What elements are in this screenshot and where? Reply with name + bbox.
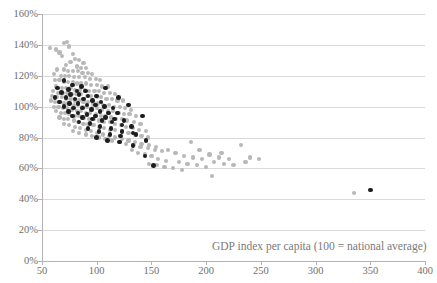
data-point-series_a	[257, 157, 261, 161]
data-point-series_a	[138, 122, 142, 126]
data-point-series_a	[118, 105, 122, 109]
data-point-series_b	[97, 129, 102, 134]
data-point-series_a	[68, 60, 72, 64]
y-tick-mark	[38, 138, 42, 139]
data-point-series_a	[65, 40, 69, 44]
data-point-series_b	[126, 103, 131, 108]
data-point-series_a	[56, 105, 60, 109]
data-point-series_a	[73, 125, 77, 129]
data-point-series_a	[231, 163, 235, 167]
y-tick-label: 80%	[0, 133, 38, 143]
y-tick-mark	[38, 199, 42, 200]
gridline-horizontal	[42, 45, 425, 46]
gridline-horizontal	[42, 76, 425, 77]
x-axis-title: GDP index per capita (100 = national ave…	[212, 240, 427, 252]
data-point-series_b	[81, 97, 86, 102]
y-tick-mark	[38, 168, 42, 169]
y-tick-label: 20%	[0, 225, 38, 235]
data-point-series_b	[89, 107, 94, 112]
data-point-series_a	[149, 154, 153, 158]
gridline-horizontal	[42, 199, 425, 200]
gridline-horizontal	[42, 14, 425, 15]
data-point-series_a	[80, 71, 84, 75]
data-point-series_b	[131, 143, 136, 148]
data-point-series_a	[130, 148, 134, 152]
data-point-series_a	[62, 122, 66, 126]
data-point-series_a	[51, 89, 55, 93]
data-point-series_a	[121, 98, 125, 102]
data-point-series_a	[122, 112, 126, 116]
y-tick-label: 60%	[0, 163, 38, 173]
x-tick-label: 50	[22, 265, 62, 276]
data-point-series_a	[352, 191, 356, 195]
x-tick-label: 400	[405, 265, 437, 276]
data-point-series_a	[71, 69, 75, 73]
data-point-series_a	[248, 155, 252, 159]
data-point-series_b	[109, 126, 114, 131]
data-point-series_b	[64, 95, 69, 100]
y-tick-label: 160%	[0, 9, 38, 19]
data-point-series_a	[124, 142, 128, 146]
x-tick-label: 300	[296, 265, 336, 276]
data-point-series_a	[67, 74, 71, 78]
data-point-series_b	[98, 109, 103, 114]
data-point-series_b	[103, 86, 108, 91]
y-tick-mark	[38, 76, 42, 77]
data-point-series_a	[222, 162, 226, 166]
data-point-series_b	[85, 112, 90, 117]
data-point-series_a	[166, 148, 170, 152]
data-point-series_b	[106, 111, 111, 116]
data-point-series_a	[138, 145, 142, 149]
x-tick-label: 200	[186, 265, 226, 276]
data-point-series_a	[156, 157, 160, 161]
gridline-horizontal	[42, 168, 425, 169]
data-point-series_a	[72, 75, 76, 79]
data-point-series_a	[57, 115, 61, 119]
y-tick-label: 40%	[0, 194, 38, 204]
data-point-series_a	[71, 129, 75, 133]
y-tick-mark	[38, 14, 42, 15]
gridline-horizontal	[42, 107, 425, 108]
y-tick-label: 120%	[0, 71, 38, 81]
data-point-series_a	[134, 114, 138, 118]
data-point-series_b	[129, 124, 134, 129]
data-point-series_b	[134, 132, 139, 137]
data-point-series_b	[143, 154, 148, 159]
data-point-series_a	[207, 152, 211, 156]
data-point-series_a	[48, 46, 52, 50]
data-point-series_a	[66, 69, 70, 73]
data-point-series_a	[200, 157, 204, 161]
y-tick-mark	[38, 107, 42, 108]
data-point-series_a	[92, 89, 96, 93]
data-point-series_a	[177, 160, 181, 164]
data-point-series_a	[139, 134, 143, 138]
data-point-series_a	[84, 66, 88, 70]
data-point-series_b	[94, 94, 99, 99]
data-point-series_b	[140, 114, 145, 119]
data-point-series_a	[60, 54, 64, 58]
data-point-series_a	[88, 77, 92, 81]
data-point-series_a	[137, 128, 141, 132]
data-point-series_a	[104, 97, 108, 101]
data-point-series_a	[227, 157, 231, 161]
data-point-series_b	[94, 135, 99, 140]
data-point-series_a	[185, 162, 189, 166]
data-point-series_b	[66, 109, 71, 114]
data-point-series_b	[116, 95, 121, 100]
data-point-series_a	[99, 95, 103, 99]
data-point-series_b	[102, 104, 107, 109]
data-point-series_a	[57, 78, 61, 82]
data-point-series_b	[86, 126, 91, 131]
data-point-series_a	[126, 131, 130, 135]
data-point-series_a	[113, 128, 117, 132]
data-point-series_a	[189, 140, 193, 144]
data-point-series_a	[164, 159, 168, 163]
data-point-series_b	[67, 101, 72, 106]
x-axis-line	[42, 261, 425, 262]
data-point-series_b	[117, 140, 122, 145]
x-tick-label: 100	[77, 265, 117, 276]
data-point-series_b	[120, 129, 125, 134]
data-point-series_a	[191, 155, 195, 159]
data-point-series_a	[78, 126, 82, 130]
data-point-series_b	[115, 111, 120, 116]
